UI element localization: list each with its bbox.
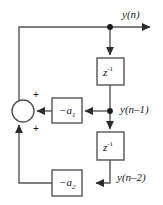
label-plus-top: +: [33, 90, 39, 100]
label-delay1-output: y(n–1): [120, 104, 149, 115]
signal-flow-diagram: y(n) y(n–1) y(n–2) + + z-1 z-1 −a1 −a2: [0, 0, 163, 205]
node-delay1-tap: [107, 108, 113, 114]
wire-delay2-to-gain2: [96, 160, 110, 183]
gain-block-a1-label: −a1: [59, 105, 75, 119]
delay2-exponent: -1: [107, 140, 113, 148]
node-output-tap: [107, 24, 113, 30]
gain2-base: −a: [59, 176, 72, 188]
gain-block-a2-label: −a2: [59, 177, 75, 191]
label-plus-bottom: +: [33, 124, 39, 134]
label-delay2-output: y(n–2): [117, 172, 146, 183]
gain1-subscript: 1: [72, 111, 76, 119]
delay1-exponent: -1: [107, 65, 113, 73]
label-output-yn: y(n): [122, 9, 140, 20]
delay-block-2-label: z-1: [103, 141, 113, 153]
delay-block-1-label: z-1: [103, 66, 113, 78]
summing-junction: [12, 100, 34, 122]
gain2-subscript: 2: [72, 183, 76, 191]
gain1-base: −a: [59, 104, 72, 116]
